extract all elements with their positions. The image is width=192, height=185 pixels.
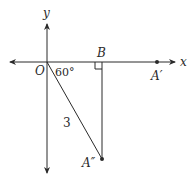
y-axis-label: y — [42, 6, 50, 20]
right-angle-marker — [95, 62, 102, 69]
angle-label: 60° — [55, 66, 75, 79]
point-b-label: B — [96, 46, 106, 60]
point-a-prime-label: A′ — [150, 69, 163, 83]
point-a-double-prime-label: A″ — [81, 156, 96, 170]
point-a-prime — [155, 60, 159, 64]
origin-label: O — [35, 64, 45, 78]
x-axis-label: x — [180, 55, 187, 69]
coordinate-diagram: y x O 60° B A′ 3 A″ — [0, 0, 192, 185]
point-a-double-prime — [100, 157, 104, 161]
length-label: 3 — [63, 116, 71, 130]
